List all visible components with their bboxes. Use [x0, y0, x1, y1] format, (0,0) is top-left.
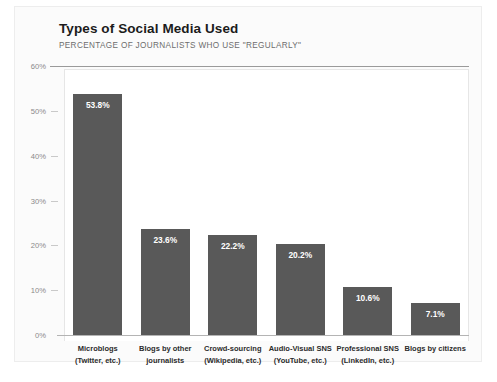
category-label-line1: Audio-Visual SNS: [269, 344, 332, 353]
x-axis-category-label: Crowd-sourcing(Wikipedia, etc.): [199, 343, 267, 366]
bar-value-label: 53.8%: [73, 100, 122, 110]
category-label-line2: journalists: [132, 355, 200, 367]
category-label-line1: Blogs by citizens: [405, 344, 466, 353]
chart-card: Types of Social Media Used PERCENTAGE OF…: [14, 6, 482, 362]
x-axis-category-label: Microblogs(Twitter, etc.): [64, 343, 132, 366]
category-label-line1: Microblogs: [78, 344, 118, 353]
bar-value-label: 10.6%: [343, 293, 392, 303]
chart-figure: Types of Social Media Used PERCENTAGE OF…: [0, 0, 497, 382]
x-axis-category-label: Audio-Visual SNS(YouTube, etc.): [267, 343, 335, 366]
bar-value-label: 23.6%: [141, 235, 190, 245]
category-label-line2: (LinkedIn, etc.): [334, 355, 402, 367]
bar[interactable]: [73, 94, 122, 335]
bar-value-label: 7.1%: [411, 309, 460, 319]
category-label-line1: Professional SNS: [336, 344, 399, 353]
bar-value-label: 22.2%: [208, 241, 257, 251]
bars-layer: 53.8%Microblogs(Twitter, etc.)23.6%Blogs…: [15, 7, 497, 382]
category-label-line2: (Wikipedia, etc.): [199, 355, 267, 367]
category-label-line1: Blogs by other: [139, 344, 192, 353]
category-label-line2: (YouTube, etc.): [267, 355, 335, 367]
category-label-line2: (Twitter, etc.): [64, 355, 132, 367]
x-axis-category-label: Blogs by citizens: [402, 343, 470, 355]
category-label-line1: Crowd-sourcing: [204, 344, 262, 353]
bar-value-label: 20.2%: [276, 250, 325, 260]
x-axis-category-label: Professional SNS(LinkedIn, etc.): [334, 343, 402, 366]
x-axis-category-label: Blogs by otherjournalists: [132, 343, 200, 366]
